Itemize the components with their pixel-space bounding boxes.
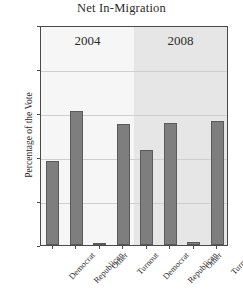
x-tick-mark-2 [99,246,100,249]
bar-2008-other[interactable] [187,242,200,245]
bar-2008-democrat[interactable] [140,150,153,245]
gridline-80 [41,71,227,72]
y-axis-title: Percentage of the Vote [24,60,34,210]
bar-2008-republican[interactable] [164,123,177,245]
x-tick-mark-3 [122,246,123,249]
x-tick-mark-0 [52,246,53,249]
bar-2004-other[interactable] [93,243,106,245]
group-label-2008: 2008 [134,33,227,49]
x-tick-mark-5 [169,246,170,249]
bar-2004-democrat[interactable] [46,161,59,245]
y-tick-mark-0 [37,246,40,247]
bar-2004-turnout[interactable] [117,124,130,245]
chart-container: Net In-Migration Percentage of the Vote … [0,0,243,304]
x-tick-mark-4 [146,246,147,249]
x-tick-label-2004-turnout: Turnout [135,250,161,277]
group-label-2004: 2004 [41,33,134,49]
x-tick-label-2008-turnout: Turnout [229,250,243,277]
x-tick-mark-7 [216,246,217,249]
x-tick-mark-1 [75,246,76,249]
bar-2004-republican[interactable] [70,111,83,245]
bar-2008-turnout[interactable] [211,121,224,245]
plot-area: 2004 2008 [40,26,228,246]
chart-title: Net In-Migration [0,0,243,16]
x-tick-mark-6 [193,246,194,249]
